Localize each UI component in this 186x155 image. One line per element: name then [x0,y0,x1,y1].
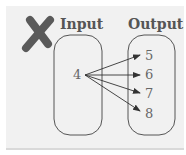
output-value: 8 [145,106,153,121]
output-value: 7 [145,86,153,101]
output-value: 5 [145,48,153,63]
arrow [85,75,140,93]
arrow [85,75,140,111]
output-value: 6 [145,67,153,82]
input-oval [54,35,102,135]
input-value: 4 [73,67,81,82]
input-label: Input [60,16,104,32]
mapping-arrows [85,55,140,111]
output-label: Output [128,16,184,32]
arrow [85,55,140,75]
mapping-diagram: Input Output 4 5 6 7 8 [0,0,186,155]
x-mark-icon [26,20,50,48]
